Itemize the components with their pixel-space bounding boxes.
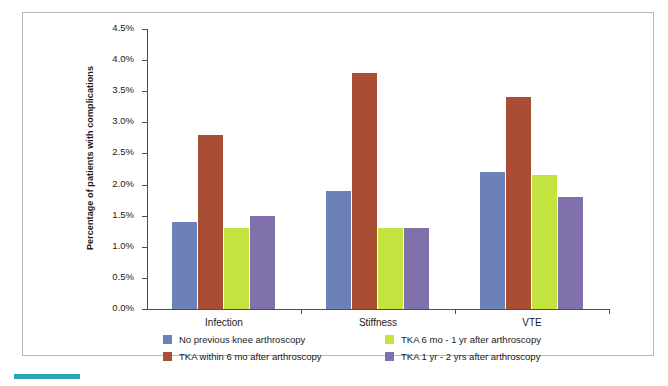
y-axis-tick: 4.0% (142, 60, 147, 61)
y-axis-tick-label: 0.5% (112, 271, 134, 282)
y-axis-tick: 0.5% (142, 278, 147, 279)
bar (378, 228, 403, 309)
legend-swatch (385, 352, 394, 361)
y-axis-title: Percentage of patients with complication… (85, 28, 95, 288)
x-axis-tick (455, 309, 456, 314)
y-axis-tick-label: 4.5% (112, 22, 134, 33)
y-axis-tick-label: 3.0% (112, 115, 134, 126)
legend-item[interactable]: TKA 1 yr - 2 yrs after arthroscopy (385, 351, 633, 362)
y-axis-tick: 2.5% (142, 153, 147, 154)
x-axis-label-infection: Infection (205, 317, 243, 328)
bar (172, 222, 197, 309)
y-axis-tick: 1.5% (142, 216, 147, 217)
legend-label: TKA within 6 mo after arthroscopy (179, 351, 322, 362)
y-axis-tick-label: 4.0% (112, 53, 134, 64)
x-axis-tick (609, 309, 610, 314)
chart-legend: No previous knee arthroscopyTKA 6 mo - 1… (163, 331, 633, 365)
legend-item[interactable]: No previous knee arthroscopy (163, 334, 385, 345)
y-axis-tick: 2.0% (142, 185, 147, 186)
bar (352, 73, 377, 309)
bar (480, 172, 505, 309)
y-axis-tick-label: 3.5% (112, 84, 134, 95)
y-axis-tick: 3.5% (142, 91, 147, 92)
y-axis-tick-label: 0.0% (112, 302, 134, 313)
legend-item[interactable]: TKA 6 mo - 1 yr after arthroscopy (385, 334, 633, 345)
legend-swatch (385, 335, 394, 344)
x-axis-line (147, 309, 610, 310)
legend-item[interactable]: TKA within 6 mo after arthroscopy (163, 351, 385, 362)
legend-label: No previous knee arthroscopy (179, 334, 305, 345)
bar (326, 191, 351, 309)
legend-swatch (163, 335, 172, 344)
y-axis-tick-label: 2.0% (112, 178, 134, 189)
y-axis-tick: 4.5% (142, 29, 147, 30)
legend-label: TKA 1 yr - 2 yrs after arthroscopy (401, 351, 540, 362)
bar (404, 228, 429, 309)
x-axis-label-vte: VTE (522, 317, 541, 328)
y-axis-tick: 0.0% (142, 309, 147, 310)
y-axis-tick-label: 1.0% (112, 240, 134, 251)
y-axis-tick: 1.0% (142, 247, 147, 248)
x-axis-tick (301, 309, 302, 314)
y-axis-tick-label: 2.5% (112, 146, 134, 157)
plot-area: 0.0%0.5%1.0%1.5%2.0%2.5%3.0%3.5%4.0%4.5%… (147, 29, 609, 309)
bar (198, 135, 223, 309)
bar (558, 197, 583, 309)
legend-swatch (163, 352, 172, 361)
legend-label: TKA 6 mo - 1 yr after arthroscopy (401, 334, 541, 345)
y-axis-tick-label: 1.5% (112, 209, 134, 220)
figure-frame: Percentage of patients with complication… (22, 12, 654, 356)
accent-bar (14, 374, 80, 379)
bar (506, 97, 531, 309)
bar (224, 228, 249, 309)
x-axis-label-stiffness: Stiffness (359, 317, 397, 328)
bar (250, 216, 275, 309)
y-axis-tick: 3.0% (142, 122, 147, 123)
bar-chart: Percentage of patients with complication… (23, 13, 655, 357)
bar (532, 175, 557, 309)
